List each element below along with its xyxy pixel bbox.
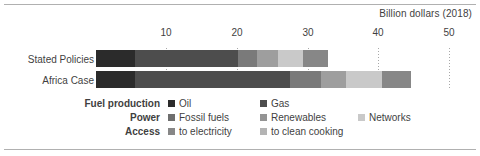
bar-segment-renewables bbox=[257, 50, 278, 67]
axis-unit-title: Billion dollars (2018) bbox=[379, 8, 472, 19]
legend-entry-oil[interactable]: Oil bbox=[168, 98, 191, 109]
legend-swatch-oil bbox=[168, 100, 175, 107]
legend-group-title-fuel-production: Fuel production bbox=[0, 98, 160, 109]
legend-row-access: Access to electricity to clean cooking bbox=[0, 126, 480, 140]
legend-label-gas: Gas bbox=[271, 98, 289, 109]
legend-row-power: Power Fossil fuels Renewables Networks bbox=[0, 112, 480, 126]
bar-segment-networks bbox=[278, 50, 303, 67]
bar-stated-policies bbox=[0, 50, 480, 67]
legend-swatch-gas bbox=[260, 100, 267, 107]
x-tick-label-30: 30 bbox=[302, 27, 313, 38]
legend-group-title-power: Power bbox=[0, 112, 160, 123]
legend-entry-renewables[interactable]: Renewables bbox=[260, 112, 326, 123]
x-tick-label-20: 20 bbox=[231, 27, 242, 38]
bar-segment-oil bbox=[96, 50, 136, 67]
legend-label-fossil-fuels: Fossil fuels bbox=[179, 112, 229, 123]
bar-segment-to-electricity bbox=[303, 50, 328, 67]
x-tick-label-40: 40 bbox=[372, 27, 383, 38]
top-border-rule bbox=[4, 4, 476, 5]
legend-swatch-renewables bbox=[260, 114, 267, 121]
bar-segment-fossil-fuels bbox=[238, 50, 257, 67]
legend-label-to-clean-cooking: to clean cooking bbox=[271, 126, 343, 137]
legend-swatch-networks bbox=[358, 114, 365, 121]
legend-swatch-to-clean-cooking bbox=[260, 128, 267, 135]
legend-swatch-to-electricity bbox=[168, 128, 175, 135]
bar-segment-gas bbox=[135, 50, 238, 67]
legend-label-to-electricity: to electricity bbox=[179, 126, 232, 137]
bar-segment-gas bbox=[135, 71, 290, 88]
legend-entry-networks[interactable]: Networks bbox=[358, 112, 411, 123]
bar-segment-oil bbox=[96, 71, 136, 88]
legend-row-fuel-production: Fuel production Oil Gas bbox=[0, 98, 480, 112]
legend-entry-fossil-fuels[interactable]: Fossil fuels bbox=[168, 112, 229, 123]
legend-entry-to-clean-cooking[interactable]: to clean cooking bbox=[260, 126, 343, 137]
legend-label-renewables: Renewables bbox=[271, 112, 326, 123]
chart-legend: Fuel production Oil Gas Power Fossil fue… bbox=[0, 98, 480, 140]
legend-label-oil: Oil bbox=[179, 98, 191, 109]
legend-swatch-fossil-fuels bbox=[168, 114, 175, 121]
bar-segment-fossil-fuels bbox=[290, 71, 321, 88]
x-tick-label-10: 10 bbox=[160, 27, 171, 38]
legend-entry-gas[interactable]: Gas bbox=[260, 98, 289, 109]
bar-segment-networks bbox=[346, 71, 382, 88]
bar-segment-to-electricity bbox=[382, 71, 411, 88]
bar-segment-renewables bbox=[321, 71, 346, 88]
legend-group-title-access: Access bbox=[0, 126, 160, 137]
bottom-border-rule bbox=[4, 149, 476, 150]
legend-entry-to-electricity[interactable]: to electricity bbox=[168, 126, 232, 137]
legend-label-networks: Networks bbox=[369, 112, 411, 123]
x-tick-label-50: 50 bbox=[443, 27, 454, 38]
stacked-bar-chart: Billion dollars (2018) 10 20 30 40 50 St… bbox=[0, 0, 480, 156]
bar-africa-case bbox=[0, 71, 480, 88]
